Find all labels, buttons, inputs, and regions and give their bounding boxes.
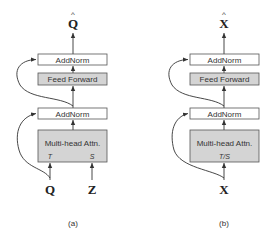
input-q: Q [45, 182, 55, 197]
attention-label: Multi-head Attn. [45, 139, 101, 148]
feed-forward-label: Feed Forward [200, 75, 250, 84]
addnorm-top-label: AddNorm [208, 56, 242, 65]
attention-input-s: S [90, 153, 95, 160]
addnorm-top-label: AddNorm [56, 56, 90, 65]
attention-input-ts: T/S [219, 153, 230, 160]
hat-accent: ^ [71, 10, 75, 19]
input-x: X [219, 182, 229, 197]
addnorm-bottom-label: AddNorm [56, 110, 90, 119]
transformer-diagrams: Q ^ AddNorm Feed Forward AddNorm Multi-h… [0, 0, 277, 239]
attention-label: Multi-head Attn. [197, 139, 253, 148]
feed-forward-label: Feed Forward [48, 75, 98, 84]
caption-b: (b) [219, 219, 229, 228]
addnorm-bottom-label: AddNorm [208, 110, 242, 119]
diagram-a: Q ^ AddNorm Feed Forward AddNorm Multi-h… [17, 10, 107, 228]
caption-a: (a) [68, 219, 78, 228]
attention-input-t: T [48, 153, 53, 160]
hat-accent: ^ [222, 10, 226, 19]
input-z: Z [88, 182, 97, 197]
diagram-b: X ^ AddNorm Feed Forward AddNorm Multi-h… [169, 10, 259, 228]
